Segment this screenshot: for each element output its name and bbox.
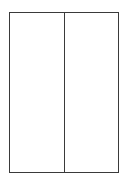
outer-rectangle xyxy=(9,12,119,173)
right-panel xyxy=(65,13,118,172)
left-panel xyxy=(10,13,64,172)
